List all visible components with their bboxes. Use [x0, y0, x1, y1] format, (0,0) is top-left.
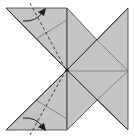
center-point [65, 68, 68, 71]
right-body [67, 8, 128, 130]
origami-diagram-svg [0, 0, 135, 138]
origami-diagram [0, 0, 135, 138]
